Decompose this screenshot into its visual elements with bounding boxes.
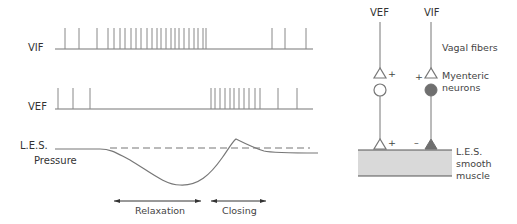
vif-spikes [65,28,306,49]
inhibitory-muscle-synapse-icon [425,139,437,149]
inhibitory-neuron-icon [425,84,437,96]
muscle-minus-sign: – [414,137,419,148]
vef-spikes [58,88,297,109]
muscle-plus-sign: + [388,137,396,148]
relaxation-label: Relaxation [135,205,185,216]
vif-trace: VIF [28,28,313,53]
phase-arrows: Relaxation Closing [114,199,266,216]
vif-excitatory-synapse-icon [425,68,437,78]
vif-label: VIF [28,42,44,53]
vef-plus-sign: + [388,68,396,79]
vef-trace: VEF [28,88,313,112]
les-label: L.E.S. [20,140,48,151]
les-muscle-label-line1: L.E.S. [456,146,482,157]
vef-label: VEF [28,101,47,112]
vif-plus-sign: + [415,71,423,82]
vef-excitatory-synapse-icon [374,68,386,78]
les-pressure-trace: L.E.S. Pressure [20,139,318,185]
vif-column-label: VIF [424,7,440,18]
neural-circuit: VEF VIF + + + – Vagal fibers Myenteric n… [358,7,498,181]
closing-label: Closing [222,205,257,216]
vef-column-label: VEF [370,7,389,18]
les-smooth-muscle-block [358,150,452,176]
les-muscle-label-line3: muscle [456,170,490,181]
pressure-label: Pressure [34,155,77,166]
les-control-diagram: VIF VEF L.E.S. Pressure Relaxation Closi… [0,0,517,224]
excitatory-muscle-synapse-icon [374,139,386,149]
myenteric-label-line2: neurons [442,82,480,93]
myenteric-label-line1: Myenteric [442,70,489,81]
les-muscle-label-line2: smooth [456,158,492,169]
vagal-fibers-label: Vagal fibers [442,42,498,53]
pressure-curve [55,139,318,185]
excitatory-neuron-icon [374,84,386,96]
